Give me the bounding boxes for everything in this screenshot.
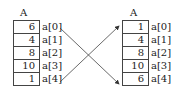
arrow-a0-to-a4 xyxy=(60,28,119,84)
swap-arrows xyxy=(0,0,177,105)
arrow-a4-to-a0 xyxy=(60,26,119,82)
